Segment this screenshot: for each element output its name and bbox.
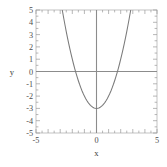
y-tick-label: 1 xyxy=(29,55,33,64)
y-tick-label: 0 xyxy=(29,68,33,77)
x-tick-label: -5 xyxy=(33,136,40,145)
chart-figure: 543210-1-2-3-4-5 -505 y x xyxy=(0,0,167,167)
y-tick-label: -3 xyxy=(26,104,33,113)
x-axis-title: x xyxy=(94,148,99,158)
y-tick-label: 2 xyxy=(29,43,33,52)
y-tick-label: -4 xyxy=(26,117,33,126)
y-axis-title: y xyxy=(10,67,15,77)
plot-canvas: 543210-1-2-3-4-5 -505 y x xyxy=(0,0,167,167)
y-tick-label: 3 xyxy=(29,31,33,40)
y-tick-label: 4 xyxy=(29,18,33,27)
y-tick-label: -1 xyxy=(26,80,33,89)
x-tick-label: 5 xyxy=(155,136,159,145)
x-tick-label: 0 xyxy=(94,136,98,145)
y-tick-label: 5 xyxy=(29,6,33,15)
y-tick-label: -2 xyxy=(26,92,33,101)
